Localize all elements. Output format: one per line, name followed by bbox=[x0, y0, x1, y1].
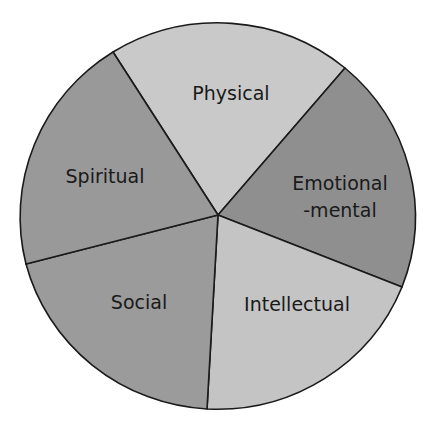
label-intellectual: Intellectual bbox=[244, 293, 350, 315]
label-mental: -mental bbox=[303, 199, 376, 221]
wellness-pie-chart: Physical Emotional -mental Intellectual … bbox=[0, 0, 431, 433]
label-emotional: Emotional bbox=[292, 172, 387, 194]
label-spiritual: Spiritual bbox=[66, 165, 145, 187]
label-physical: Physical bbox=[192, 82, 269, 104]
label-social: Social bbox=[111, 291, 167, 313]
